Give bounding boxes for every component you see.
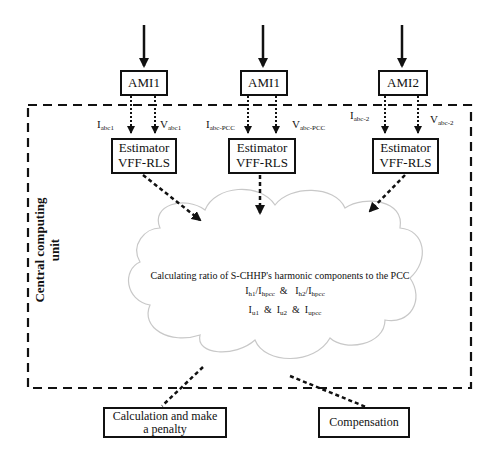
- penalty-box: Calculation and make a penalty: [103, 407, 227, 438]
- estimator-method: VFF-RLS: [118, 156, 170, 171]
- penalty-line-2: a penalty: [143, 423, 187, 436]
- voltage-label-pcc: Vabc-PCC: [292, 118, 325, 132]
- cloud-currents: Iu1 & Iu2 & Iupcc: [150, 302, 420, 321]
- label-line-1: Central computing: [32, 197, 47, 302]
- voltage-label-1: Vabc1: [160, 118, 181, 132]
- label-line-2: unit: [47, 197, 62, 302]
- estimator-box-pcc: Estimator VFF-RLS: [228, 138, 296, 174]
- voltage-label-2: Vabc-2: [430, 113, 454, 127]
- penalty-line-1: Calculation and make: [113, 410, 218, 423]
- ami-box-1: AMI1: [120, 70, 168, 96]
- ami-box-2: AMI2: [378, 70, 428, 96]
- estimator-box-1: Estimator VFF-RLS: [111, 138, 177, 174]
- ami-box-pcc: AMI1: [240, 70, 288, 96]
- cloud-ratios: Ih1/Ihpcc & Ih2/Ihpcc: [150, 283, 420, 302]
- compensation-label: Compensation: [329, 416, 398, 430]
- compensation-box: Compensation: [318, 407, 410, 438]
- cloud-content: Calculating ratio of S-CHHP's harmonic c…: [150, 268, 420, 321]
- estimator-title: Estimator: [237, 141, 288, 156]
- central-computing-unit-label: Central computing unit: [32, 197, 62, 302]
- estimator-box-2: Estimator VFF-RLS: [372, 138, 439, 174]
- current-label-2: Iabc-2: [350, 109, 369, 123]
- cloud-title: Calculating ratio of S-CHHP's harmonic c…: [140, 268, 420, 283]
- ami-label: AMI1: [248, 76, 280, 91]
- estimator-title: Estimator: [380, 141, 431, 156]
- estimator-method: VFF-RLS: [379, 156, 431, 171]
- current-label-pcc: Iabc-PCC: [206, 118, 235, 132]
- current-label-1: Iabc1: [97, 118, 114, 132]
- estimator-method: VFF-RLS: [236, 156, 288, 171]
- ami-label: AMI1: [128, 76, 160, 91]
- ami-label: AMI2: [387, 76, 419, 91]
- estimator-title: Estimator: [119, 141, 170, 156]
